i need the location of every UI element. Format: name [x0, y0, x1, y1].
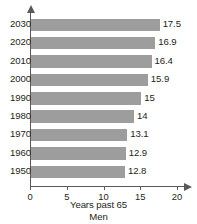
bar-chart: 203017.5202016.9201016.4200015.919901519…	[0, 0, 197, 224]
bar-value-label: 12.9	[129, 147, 147, 159]
y-axis-arrow-icon	[27, 5, 35, 13]
bar-category-label: 1970	[0, 128, 31, 140]
bar-row: 203017.5	[0, 16, 197, 34]
plot-area: 203017.5202016.9201016.4200015.919901519…	[0, 0, 197, 224]
bar-category-label: 2020	[0, 36, 31, 48]
x-tick-mark	[67, 186, 68, 190]
x-tick-mark	[177, 186, 178, 190]
bar-value-label: 15.9	[151, 73, 169, 85]
x-tick-mark	[30, 186, 31, 190]
bar-value-label: 17.5	[163, 18, 181, 30]
bar	[31, 19, 160, 32]
bar-value-label: 14	[137, 110, 147, 122]
bar	[31, 166, 125, 179]
bar	[31, 37, 155, 50]
bar-row: 197013.1	[0, 126, 197, 144]
bar-category-label: 2030	[0, 18, 31, 30]
bar	[31, 92, 141, 105]
bar-value-label: 15	[144, 92, 154, 104]
bar	[31, 129, 127, 142]
bar-value-label: 16.4	[155, 55, 173, 67]
x-tick-mark	[104, 186, 105, 190]
bar-value-label: 13.1	[130, 128, 148, 140]
bar-row: 199015	[0, 90, 197, 108]
bar-category-label: 1950	[0, 165, 31, 177]
x-axis-title: Years past 65	[0, 199, 197, 211]
bar-category-label: 1990	[0, 92, 31, 104]
bar-category-label: 2000	[0, 73, 31, 85]
bar-value-label: 12.8	[128, 165, 146, 177]
bar-row: 200015.9	[0, 71, 197, 89]
bar-value-label: 16.9	[158, 36, 176, 48]
bar-row: 195012.8	[0, 163, 197, 181]
bar	[31, 74, 148, 87]
bar-row: 201016.4	[0, 53, 197, 71]
bar-row: 202016.9	[0, 34, 197, 52]
chart-subtitle: Men	[0, 211, 197, 223]
bar-rows: 203017.5202016.9201016.4200015.919901519…	[0, 16, 197, 182]
bar	[31, 55, 152, 68]
bar-row: 198014	[0, 108, 197, 126]
bar-category-label: 1980	[0, 110, 31, 122]
bar-category-label: 1960	[0, 147, 31, 159]
bar-category-label: 2010	[0, 55, 31, 67]
x-tick-mark	[140, 186, 141, 190]
bar	[31, 110, 134, 123]
bar-row: 196012.9	[0, 145, 197, 163]
bar	[31, 147, 126, 160]
